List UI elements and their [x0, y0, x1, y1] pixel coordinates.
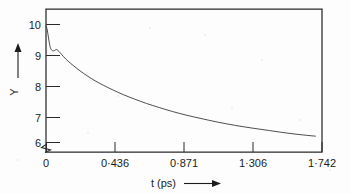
plot-frame: [46, 9, 322, 152]
y-tick-label: 7: [35, 112, 41, 124]
scan-speckles: [17, 27, 331, 171]
y-axis-ticks: [46, 25, 60, 143]
x-tick-label: 1·742: [308, 157, 336, 169]
x-axis-arrow-icon: [184, 180, 221, 187]
data-curve: [46, 26, 315, 136]
y-tick-label: 10: [29, 19, 41, 31]
x-axis-title: t (ps): [151, 177, 176, 189]
figure-container: 10 9 8 7 6 0 0·436 0·871 1·306 1·742 t (…: [0, 0, 351, 194]
x-tick-label: 0: [43, 157, 49, 169]
x-tick-label: 0·871: [170, 157, 198, 169]
y-tick-label: 8: [35, 81, 41, 93]
y-tick-label: 9: [35, 50, 41, 62]
x-axis-ticks: [47, 142, 323, 152]
y-axis-title: Y: [8, 88, 20, 96]
y-tick-label: 6: [35, 137, 41, 149]
x-tick-label: 0·436: [101, 157, 129, 169]
y-axis-arrow-icon: [15, 43, 22, 78]
x-tick-label: 1·306: [239, 157, 267, 169]
chart-canvas: 10 9 8 7 6 0 0·436 0·871 1·306 1·742 t (…: [0, 0, 351, 194]
